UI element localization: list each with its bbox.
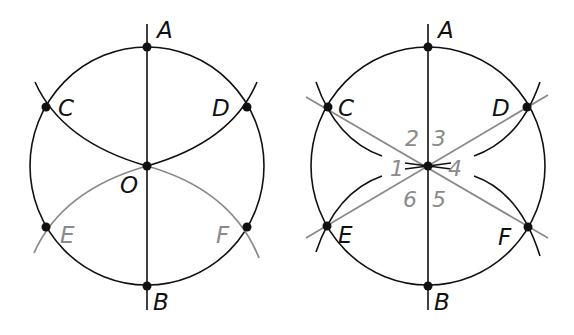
right-point-F: [524, 223, 533, 232]
angle-label-4: 4: [448, 156, 462, 181]
left-point-A: [143, 43, 152, 52]
left-label-E: E: [60, 222, 75, 248]
left-label-F: F: [216, 222, 230, 248]
right-label-B: B: [434, 289, 450, 315]
right-label-E: E: [338, 222, 353, 248]
left-label-D: D: [212, 95, 230, 121]
right-point-O: [424, 162, 433, 171]
right-point-B: [424, 282, 433, 291]
right-label-F: F: [498, 224, 512, 250]
angle-label-1: 1: [390, 156, 404, 181]
left-point-D: [243, 103, 252, 112]
left-point-E: [42, 223, 51, 232]
left-label-C: C: [58, 95, 74, 121]
hexagon-construction-figure: A B C D O E F A B C D: [0, 0, 574, 335]
left-point-C: [42, 103, 51, 112]
left-point-B: [143, 282, 152, 291]
right-point-A: [424, 43, 433, 52]
angle-label-3: 3: [432, 126, 446, 151]
angle-label-2: 2: [405, 126, 419, 151]
right-point-D: [523, 103, 532, 112]
right-point-C: [324, 103, 333, 112]
right-diagram: A B C D E F 1 2 3 4 5 6: [306, 17, 548, 315]
angle-label-5: 5: [432, 187, 446, 212]
angle-label-6: 6: [403, 187, 417, 212]
left-point-F: [243, 223, 252, 232]
right-point-E: [323, 222, 332, 231]
right-label-D: D: [492, 95, 510, 121]
right-label-A: A: [436, 17, 454, 43]
left-diagram: A B C D O E F: [30, 17, 264, 315]
left-label-A: A: [155, 17, 173, 43]
right-label-C: C: [338, 95, 354, 121]
left-label-O: O: [120, 172, 138, 198]
left-point-O: [143, 162, 152, 171]
left-label-B: B: [153, 289, 169, 315]
